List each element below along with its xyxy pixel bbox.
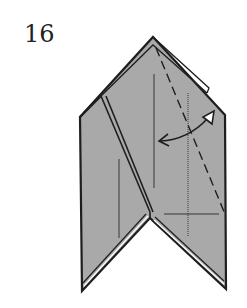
origami-diagram [0,0,247,308]
model-body [80,37,226,291]
